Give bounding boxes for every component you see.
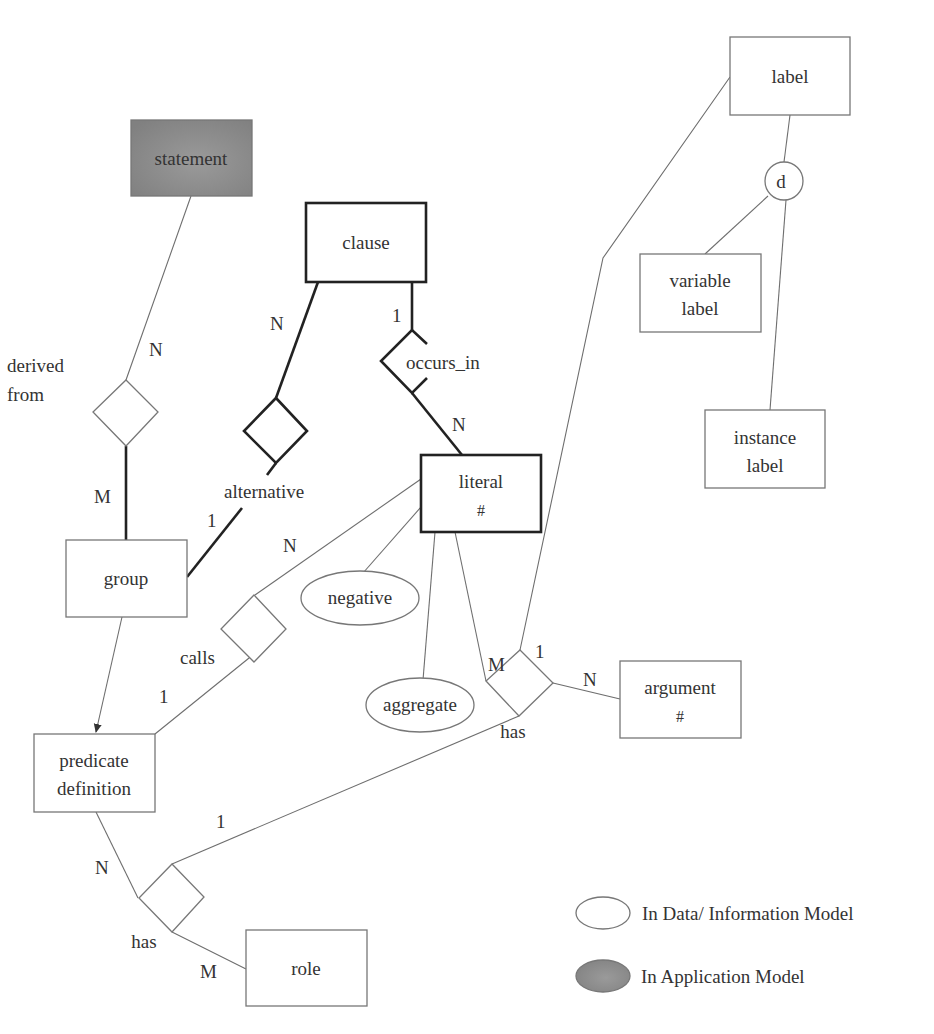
- relationship-derived-from-line2: from: [7, 384, 44, 405]
- entity-statement[interactable]: statement: [131, 120, 252, 196]
- card-clause-alternative: N: [270, 313, 284, 334]
- legend-item-application-model: In Application Model: [576, 960, 805, 992]
- entity-role[interactable]: role: [246, 930, 367, 1006]
- attribute-negative[interactable]: negative: [301, 571, 419, 625]
- entity-argument-line1: argument: [644, 677, 716, 698]
- line-literal-has: [455, 532, 486, 681]
- er-diagram: statement clause label variable label in…: [0, 0, 934, 1034]
- card-has-predicate-role-top: 1: [216, 811, 226, 832]
- card-literal-has: M: [488, 654, 505, 675]
- entity-group[interactable]: group: [66, 540, 187, 617]
- attribute-aggregate[interactable]: aggregate: [366, 678, 474, 732]
- entity-literal-line1: literal: [459, 471, 503, 492]
- card-clause-occurs-in: 1: [392, 305, 402, 326]
- entity-literal-line2: #: [477, 502, 485, 519]
- attribute-aggregate-label: aggregate: [383, 694, 457, 715]
- entity-statement-label: statement: [155, 148, 229, 169]
- line-d-instance-label: [770, 200, 786, 410]
- entity-variable-label[interactable]: variable label: [640, 254, 761, 332]
- line-literal-aggregate: [423, 532, 435, 680]
- entity-group-label: group: [104, 568, 148, 589]
- relationship-derived-from[interactable]: derived from: [7, 355, 158, 446]
- line-literal-negative: [363, 507, 421, 573]
- relationship-occurs-in-label: occurs_in: [406, 352, 480, 373]
- card-label-has: 1: [535, 641, 545, 662]
- relationship-occurs-in[interactable]: occurs_in: [381, 330, 480, 393]
- line-predicate-has: [96, 812, 138, 898]
- card-predicate-has: N: [95, 857, 109, 878]
- legend-label-data-model: In Data/ Information Model: [642, 903, 854, 924]
- entity-argument-line2: #: [676, 708, 684, 725]
- relationship-calls-label: calls: [180, 647, 215, 668]
- line-label-d: [784, 115, 790, 162]
- relationship-has-literal-argument-label: has: [500, 721, 525, 742]
- line-label-has: [520, 77, 730, 650]
- relationship-calls[interactable]: calls: [180, 595, 286, 668]
- entity-clause[interactable]: clause: [306, 203, 426, 282]
- relationship-alternative-label: alternative: [224, 481, 304, 502]
- card-predicate-calls: 1: [159, 686, 169, 707]
- entity-literal[interactable]: literal #: [421, 455, 541, 532]
- legend-swatch-data-model: [576, 897, 630, 929]
- entity-predicate-definition-line2: definition: [57, 778, 131, 799]
- legend-label-application-model: In Application Model: [641, 966, 805, 987]
- entity-instance-label-line1: instance: [734, 427, 796, 448]
- entity-clause-label: clause: [342, 232, 389, 253]
- legend-item-data-model: In Data/ Information Model: [576, 897, 854, 929]
- entity-label-label: label: [772, 66, 809, 87]
- entity-label[interactable]: label: [730, 37, 850, 115]
- card-statement-derived-from: N: [149, 339, 163, 360]
- entity-role-label: role: [291, 958, 321, 979]
- relationship-alternative[interactable]: alternative: [224, 398, 307, 502]
- legend-swatch-application-model: [576, 960, 630, 992]
- relationship-has-predicate-role-label: has: [131, 931, 156, 952]
- entity-predicate-definition[interactable]: predicate definition: [34, 734, 155, 812]
- line-group-predicate-arrow: [96, 617, 122, 732]
- line-clause-alternative: [276, 282, 318, 398]
- card-literal-calls: N: [283, 535, 297, 556]
- entity-instance-label-line2: label: [747, 455, 784, 476]
- specialization-disjoint[interactable]: d: [765, 162, 803, 200]
- line-alternative-stub: [267, 463, 276, 475]
- legend: In Data/ Information Model In Applicatio…: [576, 897, 854, 992]
- specialization-symbol: d: [776, 171, 786, 192]
- entity-argument[interactable]: argument #: [620, 661, 741, 738]
- line-has-has: [172, 716, 519, 864]
- attribute-negative-label: negative: [328, 587, 392, 608]
- relationship-has-predicate-role[interactable]: has: [131, 864, 204, 952]
- card-group-alternative: 1: [207, 510, 217, 531]
- entity-instance-label[interactable]: instance label: [705, 410, 825, 488]
- line-d-variable-label: [705, 196, 768, 254]
- card-group-derived-from: M: [94, 486, 111, 507]
- relationship-derived-from-line1: derived: [7, 355, 64, 376]
- card-role-has: M: [200, 961, 217, 982]
- card-argument-has: N: [583, 669, 597, 690]
- entity-variable-label-line1: variable: [669, 270, 730, 291]
- entity-predicate-definition-line1: predicate: [59, 750, 129, 771]
- entity-variable-label-line2: label: [682, 298, 719, 319]
- card-literal-occurs-in: N: [452, 414, 466, 435]
